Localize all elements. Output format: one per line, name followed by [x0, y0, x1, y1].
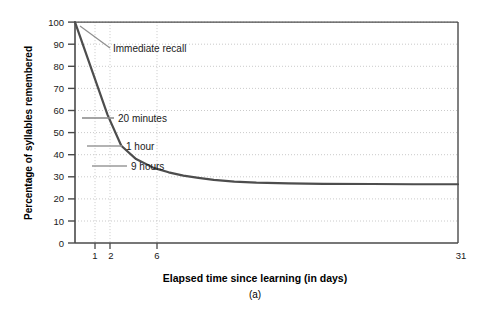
annotation-1-hour: 1 hour: [87, 141, 155, 152]
y-tick-label: 50: [53, 127, 64, 138]
y-tick-label: 70: [53, 83, 64, 94]
y-tick-label: 40: [53, 149, 64, 160]
x-axis-tick-labels: 1 2 6 31: [92, 250, 466, 261]
y-tick-label: 20: [53, 193, 64, 204]
y-tick-label: 90: [53, 39, 64, 50]
y-axis-tick-labels: 100 90 80 70 60 50 40 30 20 10 0: [48, 17, 64, 249]
annotation-immediate-recall: Immediate recall: [80, 26, 186, 54]
y-tick-label: 100: [48, 17, 64, 28]
y-axis-title: Percentage of syllables remembered: [23, 46, 34, 220]
x-tick-label: 6: [154, 250, 159, 261]
y-axis-ticks: [68, 22, 75, 243]
panel-label: (a): [249, 289, 261, 300]
x-tick-label: 1: [92, 250, 97, 261]
leader-line-immediate-recall: [80, 26, 110, 48]
annotation-label: 1 hour: [126, 141, 155, 152]
y-tick-label: 0: [59, 238, 64, 249]
forgetting-curve-figure: 100 90 80 70 60 50 40 30 20 10 0 1 2 6 3…: [0, 0, 485, 313]
y-tick-label: 60: [53, 105, 64, 116]
y-tick-label: 30: [53, 171, 64, 182]
annotation-label: 9 hours: [131, 161, 164, 172]
x-axis-title: Elapsed time since learning (in days): [163, 272, 347, 284]
y-tick-label: 10: [53, 216, 64, 227]
y-tick-label: 80: [53, 61, 64, 72]
annotation-label: Immediate recall: [113, 43, 186, 54]
annotation-label: 20 minutes: [118, 113, 167, 124]
x-tick-label: 31: [456, 250, 467, 261]
x-tick-label: 2: [108, 250, 113, 261]
chart-canvas: 100 90 80 70 60 50 40 30 20 10 0 1 2 6 3…: [0, 0, 485, 313]
annotation-9-hours: 9 hours: [92, 161, 164, 172]
x-axis-ticks: [95, 243, 157, 249]
